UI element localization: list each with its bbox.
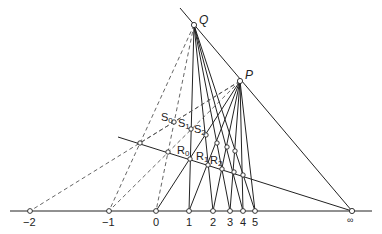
tick-label-infinity: ∞ <box>347 216 353 225</box>
tick-label-neg2: −2 <box>23 217 36 228</box>
label-r2: R2 <box>210 155 222 168</box>
label-s0: S0 <box>161 112 173 125</box>
diagram-lines <box>0 0 382 234</box>
tick-label-1: 1 <box>186 217 192 228</box>
tick-label-5: 5 <box>252 217 258 228</box>
point-q <box>191 22 196 27</box>
label-p: P <box>245 69 253 81</box>
label-r0: R0 <box>177 145 189 158</box>
tick-label-4: 4 <box>240 217 246 228</box>
tick-label-0: 0 <box>153 217 159 228</box>
projective-scale-diagram: Q P S0 S1 S2 R0 R1 R2 −2 −1 0 1 2 3 4 5 … <box>0 0 382 234</box>
label-r1: R1 <box>196 151 208 164</box>
label-q: Q <box>199 14 208 26</box>
tick-label-3: 3 <box>227 217 233 228</box>
point-p <box>237 78 242 83</box>
qp-line <box>180 8 352 211</box>
tick-label-neg1: −1 <box>102 217 115 228</box>
label-s2: S2 <box>194 124 206 137</box>
tick-label-2: 2 <box>210 217 216 228</box>
label-s1: S1 <box>178 118 190 131</box>
